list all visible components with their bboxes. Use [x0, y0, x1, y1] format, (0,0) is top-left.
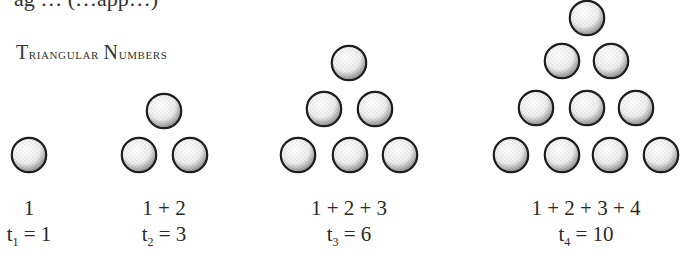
- sum-expression: 1 + 2 + 3 + 4: [531, 196, 640, 221]
- ball: [280, 137, 316, 173]
- ball: [593, 43, 629, 79]
- ball: [493, 137, 529, 173]
- ball: [592, 137, 628, 173]
- ball: [306, 91, 342, 127]
- ball: [332, 137, 368, 173]
- ball: [544, 137, 580, 173]
- ball: [11, 137, 47, 173]
- ball: [146, 93, 182, 129]
- equals-value: = 1: [19, 222, 52, 246]
- equals-value: = 3: [154, 222, 187, 246]
- ball: [643, 137, 679, 173]
- triangular-number-formula: t1 = 1: [7, 222, 52, 250]
- sum-expression: 1 + 2: [142, 196, 185, 221]
- ball: [121, 137, 157, 173]
- ball: [569, 90, 605, 126]
- ball: [331, 45, 367, 81]
- ball: [518, 90, 554, 126]
- ball: [382, 137, 418, 173]
- sum-expression: 1: [24, 196, 35, 221]
- ball: [357, 91, 393, 127]
- equals-value: = 10: [570, 222, 613, 246]
- ball: [569, 0, 605, 36]
- equals-value: = 6: [339, 222, 372, 246]
- ball: [172, 137, 208, 173]
- triangular-number-formula: t3 = 6: [327, 222, 372, 250]
- triangular-number-formula: t2 = 3: [142, 222, 187, 250]
- triangular-number-formula: t4 = 10: [558, 222, 613, 250]
- sum-expression: 1 + 2 + 3: [311, 196, 387, 221]
- ball: [544, 43, 580, 79]
- ball: [618, 90, 654, 126]
- ball-layer: [11, 0, 679, 173]
